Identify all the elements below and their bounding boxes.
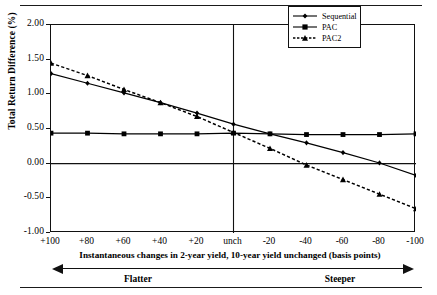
figure-container: Total Return Difference (%) 2.001.501.00… [0,0,437,295]
y-tick-label: -0.50 [0,192,44,202]
plot-area [50,24,415,232]
x-tick-label: -40 [286,236,326,246]
y-tick-label: 0.00 [0,158,44,168]
data-point-pac [85,131,90,136]
arrow-head-right-icon [403,264,414,274]
data-point-sequential [51,71,53,76]
data-point-pac [377,132,382,137]
data-point-pac2 [340,177,346,183]
x-tick-label: +100 [30,236,70,246]
data-point-sequential [231,122,235,127]
data-point-sequential [304,140,308,145]
legend-swatch-pac [292,22,318,32]
legend-swatch-sequential [292,11,318,21]
regime-arrow [52,264,414,274]
x-tick-label: unch [213,236,253,246]
bottom-rule [20,287,422,288]
data-point-pac2 [85,73,91,79]
data-point-pac [304,132,309,137]
legend-label-pac: PAC [318,23,337,32]
x-tick-label: +60 [103,236,143,246]
top-rule [20,5,422,6]
data-point-pac2 [51,60,54,66]
data-point-pac [51,131,53,136]
chart-canvas [51,25,416,233]
regime-label-flatter: Flatter [78,274,198,284]
data-point-sequential [377,160,381,165]
legend-item-pac2: PAC2 [292,33,356,43]
x-tick-label: -80 [359,236,399,246]
x-tick-label: -100 [395,236,435,246]
data-point-pac2 [304,162,310,168]
y-tick-mark [46,232,50,233]
legend-item-sequential: Sequential [292,11,356,21]
data-point-pac [158,131,163,136]
y-tick-label: 1.50 [0,54,44,64]
x-tick-label: +40 [140,236,180,246]
data-point-pac [195,131,200,136]
legend-swatch-pac2 [292,33,318,43]
data-point-sequential [414,173,416,178]
y-tick-label: 2.00 [0,19,44,29]
x-tick-label: +20 [176,236,216,246]
data-point-pac2 [121,86,127,92]
x-tick-label: -20 [249,236,289,246]
data-point-pac [414,131,416,136]
y-tick-label: 0.50 [0,123,44,133]
data-point-pac [122,131,127,136]
data-point-sequential [341,150,345,155]
data-point-pac2 [413,206,416,212]
legend-item-pac: PAC [292,22,356,32]
arrow-shaft [62,268,404,269]
y-tick-label: 1.00 [0,88,44,98]
arrow-head-left-icon [52,264,63,274]
data-point-pac [268,131,273,136]
chart-legend: Sequential PAC PAC2 [288,6,361,48]
x-tick-label: +80 [67,236,107,246]
regime-label-steeper: Steeper [280,274,400,284]
x-axis-title: Instantaneous changes in 2-year yield, 1… [30,250,430,261]
legend-label-sequential: Sequential [318,12,357,21]
x-tick-label: -60 [322,236,362,246]
legend-label-pac2: PAC2 [318,34,341,43]
data-point-pac [341,132,346,137]
data-point-sequential [85,81,89,86]
